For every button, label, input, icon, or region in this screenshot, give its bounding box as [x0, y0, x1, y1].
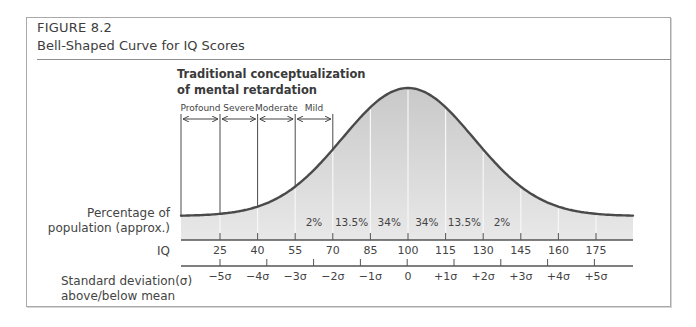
- sd-tick-label: −1σ: [359, 270, 382, 283]
- band-percentage: 34%: [378, 216, 401, 228]
- band-percentage: 13.5%: [335, 216, 368, 228]
- sd-tick-label: +1σ: [434, 270, 457, 283]
- iq-tick-label: 40: [251, 244, 265, 257]
- category-label-mild: Mild: [305, 103, 323, 113]
- iq-tick-label: 25: [213, 244, 227, 257]
- iq-tick-label: 70: [326, 244, 340, 257]
- iq-tick-label: 55: [288, 244, 302, 257]
- sd-tick-label: +5σ: [584, 270, 607, 283]
- sd-tick-label: 0: [405, 270, 412, 283]
- category-label-severe: Severe: [223, 103, 255, 113]
- iq-tick-label: 100: [398, 244, 419, 257]
- band-percentage: 34%: [415, 216, 438, 228]
- sd-tick-label: −4σ: [246, 270, 269, 283]
- iq-tick-label: 115: [435, 244, 456, 257]
- category-label-profound: Profound: [180, 103, 220, 113]
- iq-tick-label: 145: [510, 244, 531, 257]
- sd-tick-label: +4σ: [547, 270, 570, 283]
- band-percentage: 13.5%: [448, 216, 481, 228]
- sd-axis: −5σ−4σ−3σ−2σ−1σ0+1σ+2σ+3σ+4σ+5σ: [181, 259, 633, 283]
- sd-tick-label: −5σ: [208, 270, 231, 283]
- band-percentage: 2%: [306, 216, 323, 228]
- bell-curve-chart: ProfoundSevereModerateMild 2%13.5%34%34%…: [0, 0, 696, 327]
- sd-tick-label: −2σ: [321, 270, 344, 283]
- iq-tick-label: 175: [586, 244, 607, 257]
- band-percentage: 2%: [494, 216, 511, 228]
- iq-tick-label: 130: [473, 244, 494, 257]
- iq-tick-label: 160: [548, 244, 569, 257]
- sd-tick-label: +2σ: [472, 270, 495, 283]
- category-label-moderate: Moderate: [255, 103, 298, 113]
- iq-tick-label: 85: [363, 244, 377, 257]
- sd-tick-label: −3σ: [284, 270, 307, 283]
- sd-tick-label: +3σ: [509, 270, 532, 283]
